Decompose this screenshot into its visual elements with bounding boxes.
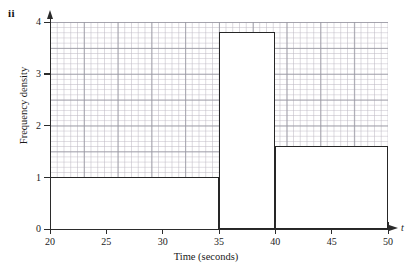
y-tick-label-3: 3 xyxy=(27,68,41,79)
x-tick-25 xyxy=(106,229,107,234)
x-tick-45 xyxy=(331,229,332,234)
histogram-figure: ii 20 25 30 35 40 45 50 0 1 2 3 4 Time (… xyxy=(0,0,412,273)
x-tick-40 xyxy=(275,222,276,234)
x-tick-label-45: 45 xyxy=(319,236,345,247)
x-axis-title: Time (seconds) xyxy=(0,251,412,262)
part-label: ii xyxy=(8,7,15,19)
x-tick-label-20: 20 xyxy=(37,236,63,247)
y-tick-label-1: 1 xyxy=(27,172,41,183)
x-tick-30 xyxy=(162,229,163,234)
y-tick-label-0: 0 xyxy=(27,223,41,234)
y-tick-1 xyxy=(44,177,50,178)
x-axis xyxy=(50,229,390,230)
x-tick-label-25: 25 xyxy=(93,236,119,247)
y-tick-label-4: 4 xyxy=(27,16,41,27)
y-axis xyxy=(50,18,51,229)
y-tick-3 xyxy=(44,73,50,74)
y-tick-4 xyxy=(44,22,50,23)
histogram-bar-20-35 xyxy=(50,177,219,229)
x-tick-50 xyxy=(388,222,389,234)
x-axis-arrow-icon xyxy=(389,225,398,231)
x-tick-label-30: 30 xyxy=(150,236,176,247)
y-axis-title: Frequency density xyxy=(18,36,29,176)
histogram-bar-40-50 xyxy=(275,146,388,229)
y-tick-2 xyxy=(44,125,50,126)
x-tick-label-35: 35 xyxy=(206,236,232,247)
x-tick-label-50: 50 xyxy=(375,236,401,247)
x-tick-label-40: 40 xyxy=(262,236,288,247)
y-axis-arrow-icon xyxy=(47,10,53,19)
histogram-bar-35-40 xyxy=(219,32,275,229)
x-tick-35 xyxy=(219,222,220,234)
x-axis-variable-label: t xyxy=(401,222,404,233)
y-tick-label-2: 2 xyxy=(27,120,41,131)
y-tick-0 xyxy=(44,229,50,230)
